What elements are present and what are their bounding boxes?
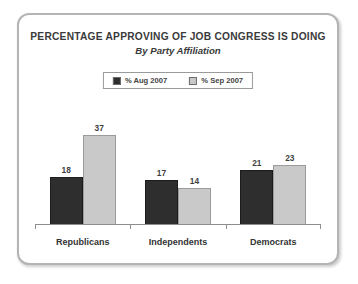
bar-rect: [273, 165, 306, 225]
legend-item-aug-2007: % Aug 2007: [113, 76, 167, 85]
bar-group-democrats: 21 23: [226, 105, 321, 225]
chart-subtitle: By Party Affiliation: [19, 44, 337, 57]
chart-legend: % Aug 2007 % Sep 2007: [103, 72, 253, 89]
bar-democrats-aug-2007: 21: [240, 105, 273, 225]
axis-tick: [130, 225, 131, 229]
bar-value-label: 14: [190, 177, 199, 186]
bar-rect: [50, 177, 83, 225]
bar-value-label: 17: [157, 169, 166, 178]
bar-democrats-sep-2007: 23: [273, 105, 306, 225]
legend-label-sep: % Sep 2007: [201, 76, 243, 85]
bar-value-label: 37: [94, 124, 103, 133]
category-labels: Republicans Independents Democrats: [35, 237, 321, 247]
axis-tick: [35, 225, 36, 229]
bar-independents-sep-2007: 14: [178, 105, 211, 225]
category-label-republicans: Republicans: [35, 237, 130, 247]
bars-row: 18 37 17 14 21: [35, 105, 321, 225]
x-axis-line: [35, 224, 321, 225]
bar-rect: [240, 170, 273, 225]
bar-value-label: 18: [61, 166, 70, 175]
legend-swatch-icon-aug: [113, 77, 121, 85]
axis-tick: [226, 225, 227, 229]
bar-republicans-sep-2007: 37: [83, 105, 116, 225]
bar-rect: [178, 188, 211, 225]
category-label-independents: Independents: [130, 237, 225, 247]
category-label-democrats: Democrats: [226, 237, 321, 247]
title-block: PERCENTAGE APPROVING OF JOB CONGRESS IS …: [19, 30, 337, 57]
bar-group-independents: 17 14: [130, 105, 225, 225]
bar-republicans-aug-2007: 18: [50, 105, 83, 225]
bar-rect: [145, 180, 178, 225]
bar-value-label: 21: [252, 159, 261, 168]
bar-value-label: 23: [285, 154, 294, 163]
axis-tick: [320, 225, 321, 229]
chart-card: PERCENTAGE APPROVING OF JOB CONGRESS IS …: [17, 13, 339, 265]
plot-area: 18 37 17 14 21: [35, 95, 321, 225]
bar-rect: [83, 135, 116, 225]
bar-independents-aug-2007: 17: [145, 105, 178, 225]
legend-item-sep-2007: % Sep 2007: [189, 76, 243, 85]
chart-title: PERCENTAGE APPROVING OF JOB CONGRESS IS …: [19, 30, 337, 43]
bar-group-republicans: 18 37: [35, 105, 130, 225]
legend-label-aug: % Aug 2007: [125, 76, 167, 85]
legend-swatch-icon-sep: [189, 77, 197, 85]
